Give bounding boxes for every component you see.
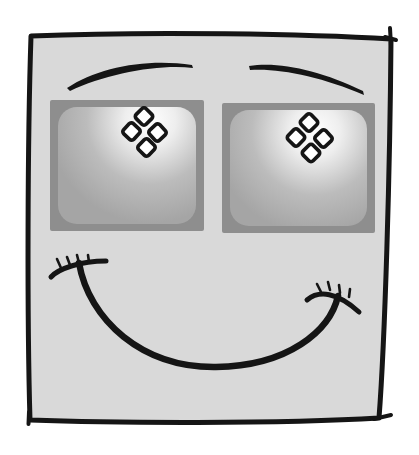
illustration-stage: smiling-face-with-crt-monitor-eyes (0, 0, 419, 455)
left-eye-monitor (50, 100, 204, 231)
right-crt-screen (230, 110, 367, 226)
smile-corner-tick (349, 289, 350, 297)
smile-corner-tick (339, 285, 340, 293)
right-eye-monitor (222, 103, 375, 233)
frame-corner-stroke-bottom-left (29, 412, 30, 424)
smile-corner-tick (88, 255, 89, 262)
illustration-canvas: smiling-face-with-crt-monitor-eyes (0, 0, 419, 455)
